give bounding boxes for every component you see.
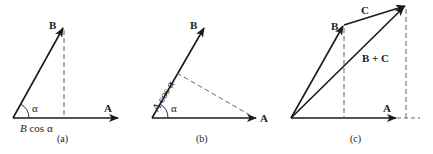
- vector-a-label: A: [104, 102, 112, 114]
- panel-b: α B A A cos α (b): [149, 19, 268, 145]
- angle-label: α: [171, 102, 177, 114]
- vector-a-label: A: [383, 102, 391, 114]
- panel-a: α B A B cos α (a): [13, 19, 118, 145]
- vector-b-label: B: [190, 19, 198, 31]
- angle-arc: [21, 104, 30, 118]
- panel-c: B C B + C A (c): [291, 4, 420, 145]
- vector-projection-diagram: α B A B cos α (a) α B A A cos α (b) B C …: [0, 0, 433, 154]
- vector-b: [291, 26, 343, 118]
- projection-label: B cos α: [20, 122, 53, 134]
- sum-label: B + C: [362, 52, 389, 64]
- angle-label: α: [32, 102, 38, 114]
- vector-b-label: B: [49, 19, 57, 31]
- projection-dashed-line: [177, 73, 255, 118]
- vector-a-label: A: [260, 112, 268, 124]
- vector-b-label: B: [331, 20, 339, 32]
- caption-b: (b): [196, 133, 208, 145]
- caption-c: (c): [350, 133, 361, 145]
- caption-a: (a): [57, 133, 68, 145]
- vector-c-label: C: [361, 4, 369, 16]
